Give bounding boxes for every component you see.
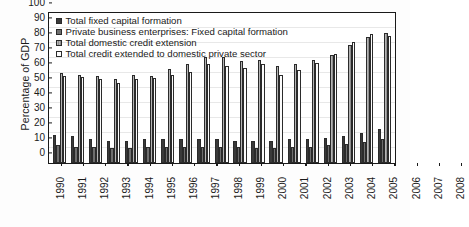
bar [334,54,337,164]
bar [63,76,66,163]
x-axis-tick: 2000 [272,166,294,222]
x-axis-tick: 2002 [317,166,339,222]
x-axis-tick-label: 1994 [145,177,155,199]
x-axis-tick-label: 1997 [211,177,221,199]
bar [352,42,355,164]
bar-group [339,13,357,163]
x-axis-tick: 1993 [116,166,138,222]
x-axis-tick-label: 1996 [189,177,199,199]
x-axis-tick-label: 2003 [345,177,355,199]
y-axis-tick-label: 10 [34,133,49,143]
legend-item[interactable]: Private business enterprises: Fixed capi… [56,27,288,37]
bar [370,34,373,163]
bar [81,77,84,163]
x-axis-tick-label: 1993 [122,177,132,199]
bar-group [357,13,375,163]
bar [171,75,174,164]
bar-group [321,13,339,163]
y-axis-tick-label: 90 [34,13,49,23]
x-axis-tick-label: 2004 [367,177,377,199]
legend-swatch-icon [56,51,62,57]
x-axis-tick: 1991 [72,166,94,222]
x-axis-tick: 1996 [183,166,205,222]
bar [225,66,228,164]
bar [99,79,102,163]
bar [388,36,391,164]
bar [207,64,210,163]
bar [243,68,246,163]
y-axis-tick-label: 100 [28,0,49,8]
y-axis-tick-label: 80 [34,28,49,38]
x-axis-tick-label: 2006 [412,177,422,199]
x-axis-tick: 1997 [205,166,227,222]
x-axis-tick: 1992 [94,166,116,222]
x-axis-tick-label: 1990 [56,177,66,199]
x-axis-tick-label: 1995 [167,177,177,199]
chart-legend: Total fixed capital formationPrivate bus… [56,16,288,59]
bar [153,78,156,164]
x-axis-tick-label: 2001 [300,177,310,199]
x-axis-tick: 2005 [383,166,405,222]
x-axis-tick: 2003 [339,166,361,222]
x-axis-labels: 1990199119921993199419951996199719981999… [48,166,396,222]
legend-item-label: Total fixed capital formation [66,16,182,26]
bar [315,63,318,164]
bar [261,64,264,163]
y-axis-tick-label: 0 [39,148,49,158]
bar [117,83,120,163]
x-axis-tick-label: 2005 [389,177,399,199]
x-axis-tick-label: 1998 [234,177,244,199]
x-axis-tick-label: 2008 [456,177,466,199]
legend-item[interactable]: Total domestic credit extension [56,38,288,48]
bar [135,79,138,163]
x-axis-tick: 1995 [161,166,183,222]
x-axis-tick-label: 2000 [278,177,288,199]
legend-item-label: Total credit extended to domestic privat… [66,49,267,59]
x-axis-tick-label: 1999 [256,177,266,199]
bar-group [303,13,321,163]
x-axis-tick: 2008 [450,166,469,222]
bar [279,75,282,164]
bar [297,70,300,163]
x-axis-tick-label: 1991 [78,177,88,199]
y-axis-tick-label: 70 [34,43,49,53]
bar-group [375,13,393,163]
x-axis-tick-label: 1992 [100,177,110,199]
x-axis-tick: 1990 [50,166,72,222]
y-axis-tick-label: 50 [34,73,49,83]
x-axis-tick: 2006 [406,166,428,222]
x-axis-tick: 2004 [361,166,383,222]
x-axis-tick: 2001 [294,166,316,222]
legend-item-label: Private business enterprises: Fixed capi… [66,27,288,37]
legend-swatch-icon [56,29,62,35]
x-axis-tick: 1999 [250,166,272,222]
y-axis-tick-label: 30 [34,103,49,113]
x-axis-tick: 1998 [228,166,250,222]
y-axis-title: Percentage of GDP [19,9,31,159]
x-axis-tick-label: 2002 [323,177,333,199]
x-axis-tick: 1994 [139,166,161,222]
bar [189,72,192,164]
legend-item[interactable]: Total credit extended to domestic privat… [56,49,288,59]
y-axis-tick-label: 40 [34,88,49,98]
x-axis-tick-label: 2007 [434,177,444,199]
legend-swatch-icon [56,18,62,24]
y-axis-tick-label: 60 [34,58,49,68]
legend-swatch-icon [56,40,62,46]
x-axis-tick: 2007 [428,166,450,222]
legend-item-label: Total domestic credit extension [66,38,197,48]
y-axis-tick-label: 20 [34,118,49,128]
legend-item[interactable]: Total fixed capital formation [56,16,288,26]
